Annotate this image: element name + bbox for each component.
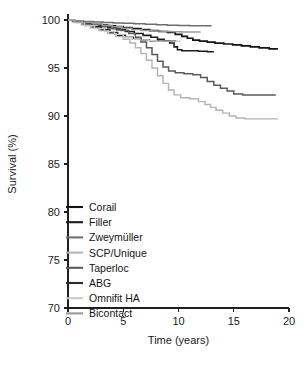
x-tick-label-20: 20 [283, 315, 295, 327]
curve-scp-unique [68, 20, 278, 119]
y-tick-label-90: 90 [48, 110, 60, 122]
legend-label-abg: ABG [89, 277, 111, 289]
legend-label-omnifit-ha: Omnifit HA [89, 292, 140, 304]
y-tick-label-85: 85 [48, 158, 60, 170]
x-axis-title: Time (years) [148, 334, 209, 346]
axes-group: 70758085909510005101520 [42, 14, 295, 327]
curves-group [68, 20, 278, 119]
legend-label-corail: Corail [89, 201, 116, 213]
x-tick-label-0: 0 [65, 315, 71, 327]
y-tick-label-75: 75 [48, 254, 60, 266]
legend-label-filler: Filler [89, 216, 112, 228]
x-tick-label-10: 10 [172, 315, 184, 327]
y-tick-label-70: 70 [48, 302, 60, 314]
legend-label-taperloc: Taperloc [89, 262, 129, 274]
y-tick-label-80: 80 [48, 206, 60, 218]
survival-plot-svg: 70758085909510005101520 CorailFillerZwey… [0, 0, 305, 367]
x-tick-label-15: 15 [228, 315, 240, 327]
y-axis-title: Survival (%) [6, 134, 18, 193]
legend-group: CorailFillerZweymüllerSCP/UniqueTaperloc… [66, 201, 147, 319]
y-tick-label-100: 100 [42, 14, 60, 26]
legend-label-zweym-ller: Zweymüller [89, 231, 143, 243]
survival-chart-figure: 70758085909510005101520 CorailFillerZwey… [0, 0, 305, 367]
y-tick-label-95: 95 [48, 62, 60, 74]
legend-label-scp-unique: SCP/Unique [89, 247, 147, 259]
legend-label-bicontact: Bicontact [89, 307, 132, 319]
